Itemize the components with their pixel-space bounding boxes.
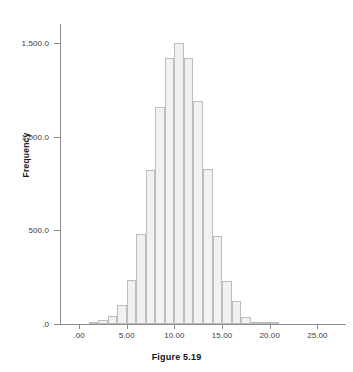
y-tick-mark [54,324,60,325]
histogram-bar [260,322,270,324]
y-tick-mark [54,137,60,138]
histogram-bar [108,316,118,324]
figure-container: Frequency .0500.01,000.01,500.0 .005.001… [0,0,353,372]
histogram-bar [251,322,261,324]
x-tick-mark [174,324,175,329]
figure-caption: Figure 5.19 [0,352,353,362]
x-tick-mark [270,324,271,329]
x-tick-label: 5.00 [119,331,135,340]
histogram-bar [184,58,194,324]
histogram-bar [155,107,165,324]
x-tick-mark [127,324,128,329]
histogram-bar [203,169,213,324]
y-tick-label: 1,000.0 [22,132,49,141]
x-tick-label: 15.00 [212,331,233,340]
x-tick-label: .00 [73,331,84,340]
histogram-bar [222,281,232,324]
histogram-bar [270,322,280,324]
x-tick-label: 10.00 [164,331,185,340]
y-tick-label: .0 [42,320,49,329]
y-tick-mark [54,43,60,44]
histogram-bar [117,305,127,324]
x-tick-mark [317,324,318,329]
histogram-bar [213,236,223,324]
histogram-bar [136,234,146,324]
histogram-bar [193,101,203,324]
x-axis-line [60,324,346,325]
histogram-bar [232,301,242,324]
x-tick-label: 20.00 [259,331,280,340]
histogram-bar [165,58,175,324]
x-tick-mark [79,324,80,329]
x-tick-label: 25.00 [307,331,328,340]
histogram-bar [241,317,251,324]
y-tick-label: 1,500.0 [22,38,49,47]
y-tick-mark [54,230,60,231]
histogram-bar [98,320,108,324]
histogram-bar [146,170,156,324]
histogram-bar [174,43,184,324]
y-axis-title: Frequency [21,105,31,205]
x-tick-mark [222,324,223,329]
histogram-bar [127,280,137,324]
histogram-bar [89,322,99,324]
histogram-bars [60,24,346,324]
y-tick-label: 500.0 [28,226,49,235]
